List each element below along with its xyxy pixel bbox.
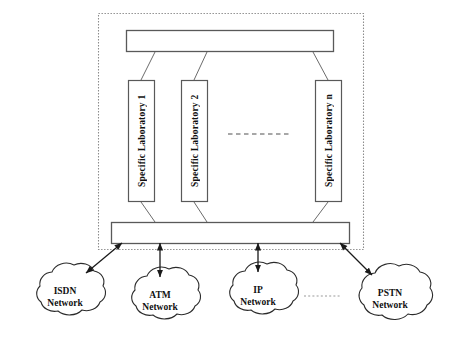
lab-2-to-bottom-bus-connector [194,202,207,222]
ip-network-label: IP Network [218,285,298,308]
pstn-network-label: PSTN Network [348,288,432,311]
bus-to-isdn-arrow [86,243,122,273]
lab-1-label: Specific Laboratory 1 [128,80,155,202]
top-bus-bar [127,31,334,52]
top-bus-to-lab-2-connector [194,52,207,80]
top-bus-to-lab-1-connector [141,52,155,80]
bus-to-pstn-arrow [340,243,372,275]
atm-network-label: ATM Network [120,290,200,313]
lab-n-label: Specific Laboratory n [315,80,342,202]
lab-2-label: Specific Laboratory 2 [181,80,208,202]
top-bus-to-lab-n-connector [313,52,328,80]
isdn-network-label: ISDN Network [25,286,105,309]
bottom-bus-bar [112,223,350,244]
lab-n-to-bottom-bus-connector [313,202,328,222]
lab-1-to-bottom-bus-connector [141,202,155,222]
diagram-canvas: Specific Laboratory 1 Specific Laborator… [0,0,460,352]
